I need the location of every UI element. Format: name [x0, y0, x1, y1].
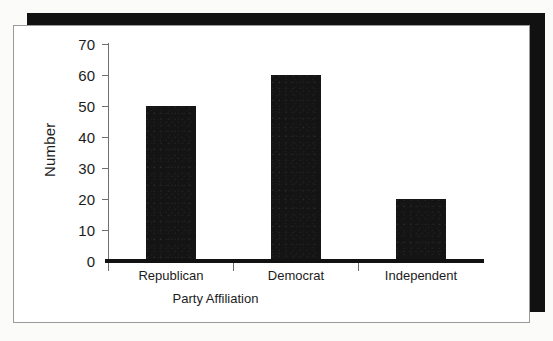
- x-tick-mark-0: [108, 263, 109, 271]
- y-tick-mark-30: [102, 168, 108, 169]
- x-category-label-republican: Republican: [111, 268, 231, 283]
- y-tick-mark-20: [102, 199, 108, 200]
- x-category-label-democrat: Democrat: [236, 268, 356, 283]
- y-tick-label-70: 70: [65, 36, 95, 53]
- x-axis-title: Party Affiliation: [0, 291, 553, 306]
- x-tick-mark-1: [233, 263, 234, 271]
- bar-chart-plot: 70 60 50 40 30 20 10 0 Republican Democr…: [0, 0, 553, 341]
- bar-republican: [146, 106, 196, 261]
- y-tick-label-40: 40: [65, 129, 95, 146]
- y-tick-label-20: 20: [65, 191, 95, 208]
- y-tick-mark-40: [102, 137, 108, 138]
- y-tick-mark-10: [102, 230, 108, 231]
- y-tick-label-60: 60: [65, 67, 95, 84]
- y-axis-line: [108, 43, 109, 262]
- y-tick-mark-50: [102, 106, 108, 107]
- y-tick-label-10: 10: [65, 222, 95, 239]
- bar-democrat: [271, 75, 321, 261]
- y-tick-mark-60: [102, 75, 108, 76]
- bar-independent: [396, 199, 446, 261]
- x-category-label-independent: Independent: [361, 268, 481, 283]
- y-tick-label-0: 0: [65, 253, 95, 270]
- y-axis-title: Number: [41, 110, 61, 190]
- x-axis-title-text: Party Affiliation: [173, 291, 259, 306]
- y-tick-label-50: 50: [65, 98, 95, 115]
- x-axis-line: [105, 259, 484, 263]
- x-tick-mark-2: [358, 263, 359, 271]
- y-tick-mark-70: [102, 44, 108, 45]
- y-tick-label-30: 30: [65, 160, 95, 177]
